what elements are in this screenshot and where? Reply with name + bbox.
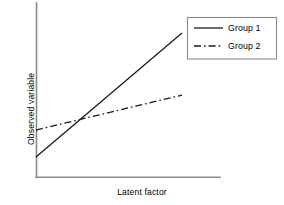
series-line-group-2 (36, 95, 182, 130)
chart-figure: Group 1 Group 2 Latent factor Observed v… (0, 0, 284, 205)
legend-label-group-1: Group 1 (228, 23, 261, 33)
legend-label-group-2: Group 2 (228, 41, 261, 51)
y-axis-label: Observed variable (26, 0, 36, 145)
series-line-group-1 (36, 33, 182, 157)
x-axis-label: Latent factor (0, 187, 284, 197)
